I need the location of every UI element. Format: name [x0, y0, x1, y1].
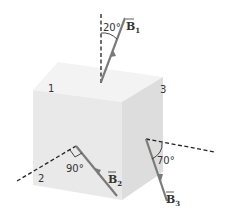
- angle-label-3: 70°: [157, 155, 175, 166]
- angle-arc-1: [101, 33, 117, 39]
- angle-label-2: 90°: [66, 163, 84, 174]
- face-label-3: 3: [160, 84, 166, 95]
- angle-label-1: 20°: [103, 22, 121, 33]
- vector-label-b1: B1: [126, 20, 140, 35]
- face-label-1: 1: [48, 83, 54, 94]
- face-label-2: 2: [38, 173, 44, 184]
- cube-diagram: 1 2 3 20° B1 90° B2 70° B3: [0, 0, 225, 218]
- vector-label-b3: B3: [166, 193, 180, 208]
